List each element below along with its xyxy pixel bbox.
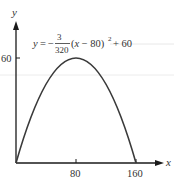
equation-paren: (x − 80) — [71, 38, 105, 50]
y-axis-label: y — [11, 6, 17, 18]
x-tick-label-80: 80 — [70, 168, 81, 179]
x-axis-label: x — [165, 156, 171, 168]
equation-annotation: y = − 3 320 (x − 80) 2 + 60 — [32, 32, 132, 55]
y-tick-label-60: 60 — [1, 53, 12, 64]
parabola-chart: y x 60 80 160 y = − 3 320 (x − 80) 2 + 6… — [0, 0, 174, 181]
parabola-curve — [16, 58, 136, 163]
equation-equals: = — [40, 38, 46, 49]
x-axis-arrow-icon — [155, 160, 164, 166]
equation-sign: − — [48, 38, 54, 49]
equation-lhs: y — [32, 38, 38, 49]
y-axis-arrow-icon — [13, 21, 19, 30]
equation-denominator: 320 — [55, 45, 69, 55]
equation-tail: + 60 — [113, 38, 132, 49]
equation-numerator: 3 — [57, 32, 62, 42]
x-tick-label-160: 160 — [127, 168, 143, 179]
equation-exponent: 2 — [108, 35, 112, 43]
